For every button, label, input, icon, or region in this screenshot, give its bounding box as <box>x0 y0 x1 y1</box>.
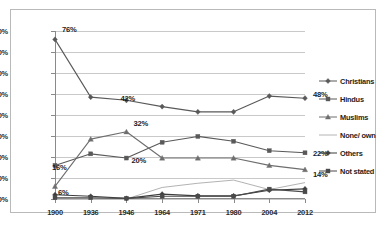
x-axis-tick-label: 1980 <box>226 208 242 217</box>
data-label: 20% <box>131 156 146 165</box>
y-axis-tick-label: 20% <box>0 153 8 162</box>
data-point-marker <box>303 151 307 155</box>
legend-marker-icon <box>319 148 337 158</box>
legend-marker-icon <box>319 130 337 140</box>
data-point-marker <box>124 196 128 200</box>
data-point-marker <box>53 196 57 200</box>
data-point-marker <box>160 194 164 198</box>
x-axis-tick-label: 2012 <box>297 208 313 217</box>
data-label: 6% <box>58 188 69 197</box>
legend-item-label: Christians <box>340 77 374 86</box>
x-axis-tick-mark <box>234 199 235 203</box>
series-muslims <box>52 129 307 188</box>
legend-item-others[interactable]: Others <box>319 144 388 162</box>
y-axis-tick-label: 10% <box>0 174 8 183</box>
data-point-marker <box>89 152 93 156</box>
data-point-marker <box>232 139 236 143</box>
data-point-marker <box>267 94 272 99</box>
data-point-marker <box>267 187 271 191</box>
y-axis-tick-label: 60% <box>0 69 8 78</box>
legend-item-hindus[interactable]: Hindus <box>319 90 388 108</box>
data-point-marker <box>196 194 200 198</box>
data-point-marker <box>196 134 200 138</box>
x-axis-tick-label: 1946 <box>119 208 135 217</box>
legend-item-not-stated[interactable]: Not stated <box>319 162 388 180</box>
data-label: 32% <box>133 119 148 128</box>
data-point-marker <box>160 140 164 144</box>
legend-item-muslims[interactable]: Muslims <box>319 108 388 126</box>
x-axis-tick-label: 2004 <box>261 208 277 217</box>
data-label: 16% <box>52 163 67 172</box>
legend-marker-icon <box>319 166 337 176</box>
y-axis-tick-label: 40% <box>0 111 8 120</box>
x-axis-tick-mark <box>198 199 199 203</box>
x-axis-tick-label: 1971 <box>190 208 206 217</box>
chart-legend: ChristiansHindusMuslimsNone/ ownOthersNo… <box>319 72 388 180</box>
x-axis-tick-label: 1900 <box>47 208 63 217</box>
legend-marker-icon <box>319 76 337 86</box>
data-point-marker <box>231 109 236 114</box>
x-axis-tick-mark <box>162 199 163 203</box>
data-point-marker <box>303 96 308 101</box>
x-axis-tick-label: 1936 <box>83 208 99 217</box>
legend-item-label: Not stated <box>340 167 374 176</box>
legend-item-christians[interactable]: Christians <box>319 72 388 90</box>
legend-item-label: Hindus <box>340 95 364 104</box>
series-christians <box>53 37 308 115</box>
x-axis-tick-mark <box>269 199 270 203</box>
legend-marker-icon <box>319 94 337 104</box>
data-point-marker <box>232 194 236 198</box>
y-axis-tick-label: 70% <box>0 48 8 57</box>
y-axis-tick-label: 0% <box>0 195 8 204</box>
data-point-marker <box>267 149 271 153</box>
chart-frame: 0%10%20%30%40%50%60%70%80% 1900193619461… <box>10 9 376 213</box>
data-point-marker <box>124 156 128 160</box>
legend-item-label: Muslims <box>340 113 368 122</box>
y-axis-tick-label: 50% <box>0 90 8 99</box>
data-point-marker <box>89 196 93 200</box>
y-axis-tick-label: 80% <box>0 27 8 36</box>
x-axis-tick-label: 1964 <box>154 208 170 217</box>
legend-item-none-own[interactable]: None/ own <box>319 126 388 144</box>
series-not-stated <box>53 187 307 200</box>
data-point-marker <box>160 104 165 109</box>
series-lines <box>55 31 305 199</box>
data-point-marker <box>195 109 200 114</box>
data-point-marker <box>303 190 307 194</box>
data-label: 76% <box>62 25 77 34</box>
x-axis-tick-mark <box>305 199 306 203</box>
y-axis-tick-label: 30% <box>0 132 8 141</box>
data-point-marker <box>124 129 129 134</box>
data-label: 42% <box>120 94 135 103</box>
legend-marker-icon <box>319 112 337 122</box>
legend-item-label: None/ own <box>340 131 376 140</box>
legend-item-label: Others <box>340 149 363 158</box>
plot-area: 0%10%20%30%40%50%60%70%80% 1900193619461… <box>55 31 305 199</box>
series-line <box>55 39 305 111</box>
chart-figure: 0%10%20%30%40%50%60%70%80% 1900193619461… <box>0 0 388 232</box>
